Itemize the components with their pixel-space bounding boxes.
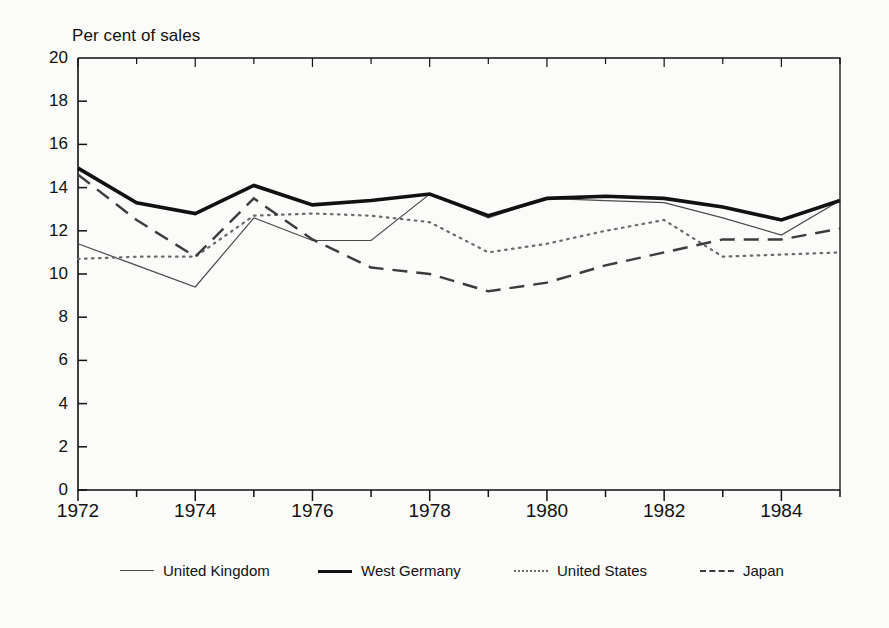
y-tick-label-18: 18 xyxy=(22,91,68,111)
legend-item-us[interactable]: United States xyxy=(514,556,647,584)
legend-label-jp: Japan xyxy=(743,562,784,579)
series-line-united-states xyxy=(78,214,840,259)
series-line-japan xyxy=(78,175,840,292)
x-tick-label-1978: 1978 xyxy=(409,500,451,522)
legend-item-jp[interactable]: Japan xyxy=(700,556,784,584)
legend-swatch-jp-icon xyxy=(700,563,734,577)
series-line-west-germany xyxy=(78,168,840,220)
legend-swatch-uk-icon xyxy=(120,563,154,577)
tick-marks xyxy=(78,58,840,501)
legend-swatch-us-icon xyxy=(514,563,548,577)
y-tick-label-20: 20 xyxy=(22,48,68,68)
x-tick-label-1984: 1984 xyxy=(760,500,802,522)
y-tick-label-2: 2 xyxy=(22,437,68,457)
legend-item-uk[interactable]: United Kingdom xyxy=(120,556,270,584)
y-tick-label-4: 4 xyxy=(22,394,68,414)
line-chart-plot xyxy=(0,0,889,628)
y-tick-label-8: 8 xyxy=(22,307,68,327)
x-tick-label-1974: 1974 xyxy=(174,500,216,522)
y-tick-label-14: 14 xyxy=(22,178,68,198)
y-tick-label-16: 16 xyxy=(22,134,68,154)
x-tick-label-1976: 1976 xyxy=(291,500,333,522)
y-tick-label-12: 12 xyxy=(22,221,68,241)
legend-label-us: United States xyxy=(557,562,647,579)
y-tick-label-6: 6 xyxy=(22,350,68,370)
legend-item-wg[interactable]: West Germany xyxy=(318,556,461,584)
y-tick-label-0: 0 xyxy=(22,480,68,500)
x-tick-label-1982: 1982 xyxy=(643,500,685,522)
chart-figure: Per cent of sales 02468101214161820 1972… xyxy=(0,0,889,628)
chart-legend: United KingdomWest GermanyUnited StatesJ… xyxy=(0,556,889,590)
axis-lines xyxy=(78,58,840,490)
legend-label-wg: West Germany xyxy=(361,562,461,579)
y-tick-label-10: 10 xyxy=(22,264,68,284)
legend-label-uk: United Kingdom xyxy=(163,562,270,579)
data-series-layer xyxy=(78,168,840,291)
x-tick-label-1972: 1972 xyxy=(57,500,99,522)
legend-swatch-wg-icon xyxy=(318,563,352,577)
x-tick-label-1980: 1980 xyxy=(526,500,568,522)
